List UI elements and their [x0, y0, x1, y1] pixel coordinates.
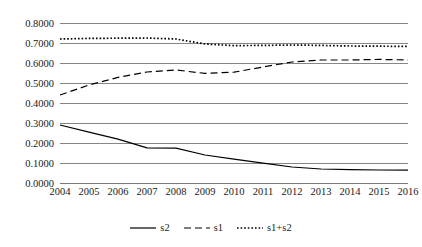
plot-area	[60, 23, 408, 183]
legend-label: s2	[160, 222, 169, 233]
legend-swatch-solid	[130, 224, 156, 232]
y-axis-tick-labels: 0.80000.70000.60000.50000.40000.30000.20…	[0, 23, 54, 183]
x-axis-tick-label: 2008	[166, 186, 187, 197]
chart-legend: s2s1s1+s2	[0, 222, 422, 233]
series-line-s2	[60, 125, 408, 170]
y-axis-tick-label: 0.8000	[25, 18, 54, 29]
legend-label: s1+s2	[267, 222, 292, 233]
x-axis-tick-label: 2006	[108, 186, 129, 197]
x-axis-line	[60, 183, 408, 184]
x-axis-tick-label: 2014	[340, 186, 361, 197]
x-axis-tick-label: 2009	[195, 186, 216, 197]
y-axis-tick-label: 0.2000	[25, 138, 54, 149]
x-axis-tick-label: 2012	[282, 186, 303, 197]
y-axis-tick-label: 0.7000	[25, 38, 54, 49]
x-axis-tick-label: 2016	[398, 186, 419, 197]
legend-item-s2[interactable]: s2	[130, 222, 169, 233]
legend-item-s1-plus-s2[interactable]: s1+s2	[237, 222, 292, 233]
y-axis-tick-label: 0.1000	[25, 158, 54, 169]
series-container	[60, 23, 408, 183]
x-axis-tick-label: 2015	[369, 186, 390, 197]
legend-item-s1[interactable]: s1	[184, 222, 223, 233]
legend-swatch-dotted	[237, 224, 263, 232]
x-axis-tick-labels: 2004200520062007200820092010201120122013…	[60, 186, 408, 202]
y-axis-tick-label: 0.6000	[25, 58, 54, 69]
y-axis-tick-label: 0.5000	[25, 78, 54, 89]
x-axis-tick-label: 2007	[137, 186, 158, 197]
x-axis-tick-label: 2010	[224, 186, 245, 197]
x-axis-tick-label: 2013	[311, 186, 332, 197]
series-line-s1-plus-s2	[60, 38, 408, 46]
y-axis-tick-label: 0.3000	[25, 118, 54, 129]
x-axis-tick-label: 2011	[253, 186, 274, 197]
y-axis-tick-label: 0.4000	[25, 98, 54, 109]
line-chart: 0.80000.70000.60000.50000.40000.30000.20…	[0, 0, 422, 247]
legend-swatch-dashed	[184, 224, 210, 232]
x-axis-tick-label: 2004	[50, 186, 71, 197]
x-axis-tick-label: 2005	[79, 186, 100, 197]
legend-label: s1	[214, 222, 223, 233]
series-line-s1	[60, 59, 408, 95]
